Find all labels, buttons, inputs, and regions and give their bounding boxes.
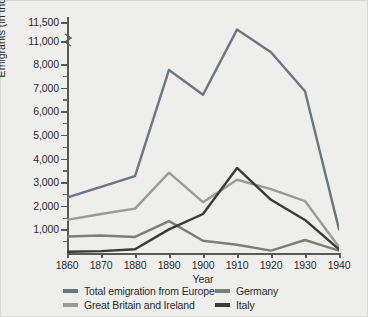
y-minor-tick xyxy=(63,218,67,219)
data-series-layer xyxy=(67,17,339,253)
series-line-italy xyxy=(67,168,339,252)
series-line-germany xyxy=(67,221,339,251)
x-tick-label-1940: 1940 xyxy=(328,259,351,271)
legend-label-great-britain-and-ireland: Great Britain and Ireland xyxy=(84,299,195,311)
y-minor-tick xyxy=(63,76,67,77)
chart-legend: Total emigration from Europe Germany Gre… xyxy=(63,284,333,312)
y-tick-label-5000: 5,000 xyxy=(33,129,59,141)
legend-row: Great Britain and Ireland Italy xyxy=(63,298,333,312)
y-tick-6000 xyxy=(61,111,67,113)
legend-swatch-total-emigration-from-europe xyxy=(63,289,78,292)
legend-item-great-britain-and-ireland: Great Britain and Ireland xyxy=(63,299,215,311)
x-tick-label-1880: 1880 xyxy=(124,259,147,271)
y-tick-1000 xyxy=(61,229,67,231)
legend-item-italy: Italy xyxy=(215,299,255,311)
legend-label-germany: Germany xyxy=(236,285,278,297)
legend-row: Total emigration from Europe Germany xyxy=(63,284,333,298)
y-tick-label-2000: 2,000 xyxy=(33,200,59,212)
x-tick-1870 xyxy=(101,253,103,258)
x-tick-1920 xyxy=(271,253,273,258)
chart-figure: 1,0002,0003,0004,0005,0006,0007,0008,000… xyxy=(0,0,368,317)
x-tick-1900 xyxy=(203,253,205,258)
y-tick-label-4000: 4,000 xyxy=(33,153,59,165)
x-tick-label-1910: 1910 xyxy=(226,259,249,271)
y-tick-label-7000: 7,000 xyxy=(33,82,59,94)
x-tick-1890 xyxy=(169,253,171,258)
x-tick-1880 xyxy=(135,253,137,258)
y-tick-label-8000: 8,000 xyxy=(33,58,59,70)
x-tick-1860 xyxy=(67,253,69,258)
y-minor-tick xyxy=(63,194,67,195)
x-tick-label-1920: 1920 xyxy=(260,259,283,271)
x-tick-label-1930: 1930 xyxy=(294,259,317,271)
x-tick-label-1860: 1860 xyxy=(56,259,79,271)
y-tick-label-1000: 1,000 xyxy=(33,223,59,235)
legend-swatch-germany xyxy=(215,289,230,292)
y-minor-tick xyxy=(63,99,67,100)
y-tick-11000 xyxy=(61,41,67,43)
legend-swatch-italy xyxy=(215,303,230,306)
y-tick-label-3000: 3,000 xyxy=(33,176,59,188)
x-tick-label-1900: 1900 xyxy=(192,259,215,271)
legend-label-total-emigration-from-europe: Total emigration from Europe xyxy=(84,285,215,297)
y-tick-7000 xyxy=(61,88,67,90)
y-minor-tick xyxy=(63,241,67,242)
y-axis-title: Emigrants (in thousands) xyxy=(0,0,7,119)
x-tick-label-1890: 1890 xyxy=(158,259,181,271)
legend-label-italy: Italy xyxy=(236,299,255,311)
y-minor-tick xyxy=(63,170,67,171)
legend-swatch-great-britain-and-ireland xyxy=(63,303,78,306)
y-tick-8000 xyxy=(61,64,67,66)
y-tick-label-6000: 6,000 xyxy=(33,105,59,117)
y-tick-label-11000: 11,000 xyxy=(28,35,59,47)
y-minor-tick xyxy=(63,123,67,124)
plot-area: 1,0002,0003,0004,0005,0006,0007,0008,000… xyxy=(67,17,339,253)
x-tick-1930 xyxy=(305,253,307,258)
y-tick-3000 xyxy=(61,182,67,184)
y-tick-5000 xyxy=(61,135,67,137)
y-tick-4000 xyxy=(61,159,67,161)
x-tick-1910 xyxy=(237,253,239,258)
x-tick-label-1870: 1870 xyxy=(90,259,113,271)
legend-item-germany: Germany xyxy=(215,285,278,297)
legend-item-total-emigration-from-europe: Total emigration from Europe xyxy=(63,285,215,297)
y-tick-11500 xyxy=(61,22,67,24)
x-tick-1940 xyxy=(339,253,341,258)
y-tick-label-11500: 11,500 xyxy=(28,16,59,28)
y-minor-tick xyxy=(63,147,67,148)
y-tick-2000 xyxy=(61,206,67,208)
